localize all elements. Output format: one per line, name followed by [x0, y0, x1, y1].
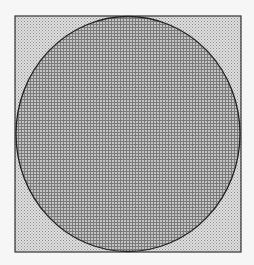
inscribed-circle: [16, 17, 240, 252]
inscribed-circle-figure: [0, 0, 254, 265]
